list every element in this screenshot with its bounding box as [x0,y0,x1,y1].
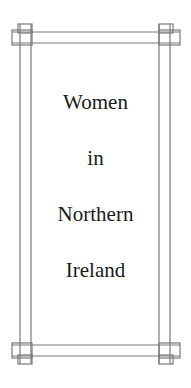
title-line-3: Northern [0,204,191,225]
title-line-4: Ireland [0,260,191,281]
decorative-border-frame [0,0,191,388]
title-line-2: in [0,148,191,169]
title-line-1: Women [0,92,191,113]
